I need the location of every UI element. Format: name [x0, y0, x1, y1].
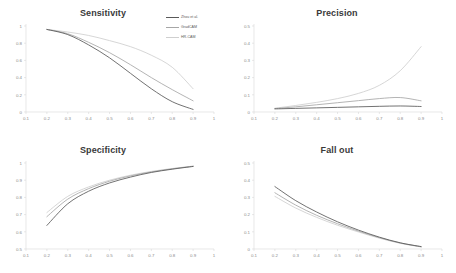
svg-text:0.6: 0.6: [355, 116, 362, 121]
svg-text:0.6: 0.6: [127, 253, 134, 258]
metrics-figure: Sensitivity 00.20.40.60.810.10.20.30.40.…: [0, 0, 456, 273]
svg-text:0: 0: [20, 110, 23, 115]
svg-text:0.3: 0.3: [244, 58, 251, 63]
svg-text:0.5: 0.5: [16, 247, 23, 252]
svg-text:0.1: 0.1: [244, 230, 251, 235]
chart-panel-sensitivity: Sensitivity 00.20.40.60.810.10.20.30.40.…: [0, 0, 228, 136]
svg-text:0.5: 0.5: [107, 116, 114, 121]
plot-area-fallout: 00.10.20.30.40.50.10.20.30.40.50.60.70.8…: [228, 137, 456, 273]
svg-text:0.7: 0.7: [16, 212, 23, 217]
svg-text:0.2: 0.2: [44, 253, 51, 258]
svg-text:0.1: 0.1: [251, 253, 258, 258]
legend-swatch-hrcam: [166, 37, 179, 38]
svg-text:0.1: 0.1: [23, 253, 30, 258]
legend-label-gradcam: GradCAM: [181, 26, 197, 30]
svg-text:0.6: 0.6: [355, 253, 362, 258]
svg-text:0.9: 0.9: [16, 178, 23, 183]
svg-text:0.7: 0.7: [376, 253, 383, 258]
svg-text:1: 1: [213, 253, 216, 258]
svg-text:0.9: 0.9: [190, 116, 197, 121]
plot-area-precision: 00.10.20.30.40.50.10.20.30.40.50.60.70.8…: [228, 0, 456, 136]
svg-text:0.8: 0.8: [397, 116, 404, 121]
chart-panel-specificity: Specificity 0.50.60.70.80.910.10.20.30.4…: [0, 137, 228, 273]
legend-swatch-zhou: [166, 17, 179, 18]
svg-text:0.2: 0.2: [16, 93, 23, 98]
svg-text:0.7: 0.7: [376, 116, 383, 121]
svg-text:0.5: 0.5: [335, 116, 342, 121]
svg-text:0.4: 0.4: [314, 253, 321, 258]
svg-text:1: 1: [20, 161, 23, 166]
series-line-gradcam: [47, 166, 193, 216]
chart-panel-fallout: Fall out 00.10.20.30.40.50.10.20.30.40.5…: [228, 137, 456, 273]
svg-text:1: 1: [213, 116, 216, 121]
svg-text:0.9: 0.9: [190, 253, 197, 258]
svg-text:0.3: 0.3: [244, 195, 251, 200]
svg-text:0.6: 0.6: [16, 230, 23, 235]
svg-text:0.5: 0.5: [335, 253, 342, 258]
svg-text:0.3: 0.3: [293, 116, 300, 121]
svg-text:0.8: 0.8: [169, 253, 176, 258]
svg-text:0.7: 0.7: [148, 253, 155, 258]
svg-text:0.1: 0.1: [251, 116, 258, 121]
svg-text:0.1: 0.1: [23, 116, 30, 121]
svg-text:0: 0: [248, 110, 251, 115]
chart-panel-precision: Precision 00.10.20.30.40.50.10.20.30.40.…: [228, 0, 456, 136]
svg-text:0.4: 0.4: [244, 178, 251, 183]
svg-text:0.5: 0.5: [107, 253, 114, 258]
legend-item-zhou: Zhou et al.: [166, 13, 226, 22]
svg-text:0.8: 0.8: [16, 195, 23, 200]
svg-text:0.9: 0.9: [418, 116, 425, 121]
svg-text:0.4: 0.4: [314, 116, 321, 121]
svg-text:0.6: 0.6: [127, 116, 134, 121]
svg-text:0: 0: [248, 247, 251, 252]
svg-text:0.2: 0.2: [44, 116, 51, 121]
legend-label-hrcam: HR-CAM: [181, 36, 195, 40]
svg-text:0.8: 0.8: [169, 116, 176, 121]
series-line-hr-cam: [275, 47, 421, 109]
plot-area-specificity: 0.50.60.70.80.910.10.20.30.40.50.60.70.8…: [0, 137, 228, 273]
svg-text:0.4: 0.4: [244, 41, 251, 46]
series-line-hr-cam: [47, 166, 193, 212]
svg-text:0.6: 0.6: [16, 58, 23, 63]
svg-text:0.4: 0.4: [86, 253, 93, 258]
series-line-hr-cam: [275, 196, 421, 247]
svg-text:0.9: 0.9: [418, 253, 425, 258]
svg-text:0.8: 0.8: [397, 253, 404, 258]
svg-text:0.2: 0.2: [272, 253, 279, 258]
svg-text:0.3: 0.3: [65, 253, 72, 258]
svg-text:1: 1: [441, 116, 444, 121]
svg-text:0.8: 0.8: [16, 41, 23, 46]
svg-text:0.5: 0.5: [244, 24, 251, 29]
svg-text:0.4: 0.4: [16, 75, 23, 80]
svg-text:0.5: 0.5: [244, 161, 251, 166]
svg-text:0.7: 0.7: [148, 116, 155, 121]
svg-text:1: 1: [441, 253, 444, 258]
svg-text:0.3: 0.3: [293, 253, 300, 258]
svg-text:0.2: 0.2: [272, 116, 279, 121]
legend-label-zhou: Zhou et al.: [181, 16, 198, 20]
svg-text:0.2: 0.2: [244, 212, 251, 217]
legend-item-hrcam: HR-CAM: [166, 33, 226, 42]
svg-text:0.4: 0.4: [86, 116, 93, 121]
svg-text:0.1: 0.1: [244, 93, 251, 98]
series-line-zhou-et-al: [275, 187, 421, 247]
svg-text:0.3: 0.3: [65, 116, 72, 121]
legend-swatch-gradcam: [166, 27, 179, 28]
legend-item-gradcam: GradCAM: [166, 23, 226, 32]
svg-text:0.2: 0.2: [244, 75, 251, 80]
legend: Zhou et al. GradCAM HR-CAM: [166, 13, 226, 43]
svg-text:1: 1: [20, 24, 23, 29]
